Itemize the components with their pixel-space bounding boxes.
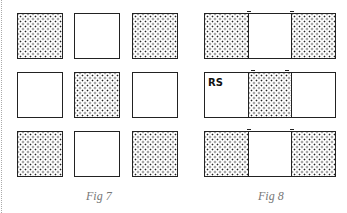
fig7-square-r3c1-dotted (17, 131, 63, 177)
fig8-caption: Fig 8 (258, 189, 284, 204)
fig8-strip3-cell-dotted (205, 132, 248, 176)
hinge-mark (247, 129, 251, 133)
fig7-square-r1c1-dotted (17, 13, 63, 59)
fig7-square-r2c1-blank (17, 72, 63, 118)
fig8-strip2-cell-blank: RS (205, 73, 248, 117)
fig8-strip-1 (204, 13, 336, 59)
fig8-strip1-cell-dotted (291, 14, 335, 58)
fig7-square-r2c2-dotted (74, 72, 120, 118)
fig7-square-r3c2-blank (74, 131, 120, 177)
rs-label: RS (208, 77, 223, 88)
fig7-square-r1c2-blank (74, 13, 120, 59)
fig8-strip2-cell-dotted (248, 73, 292, 117)
hinge-mark (251, 70, 255, 74)
fig7-square-r2c3-blank (132, 72, 178, 118)
fig8-strip1-cell-dotted (205, 14, 248, 58)
fig7-square-r3c3-dotted (132, 131, 178, 177)
page-margin-rule (1, 0, 2, 213)
fig8-strip-2: RS (204, 72, 336, 118)
fig8-strip2-cell-blank (291, 73, 335, 117)
fig7-caption: Fig 7 (86, 189, 112, 204)
hinge-mark (285, 70, 289, 74)
fig7-square-r1c3-dotted (132, 13, 178, 59)
fig8-strip3-cell-blank (248, 132, 292, 176)
hinge-mark (247, 11, 251, 15)
fig8-strip-3 (204, 131, 336, 177)
hinge-mark (290, 129, 294, 133)
hinge-mark (290, 11, 294, 15)
fig8-strip3-cell-dotted (291, 132, 335, 176)
fig8-strip1-cell-blank (248, 14, 292, 58)
